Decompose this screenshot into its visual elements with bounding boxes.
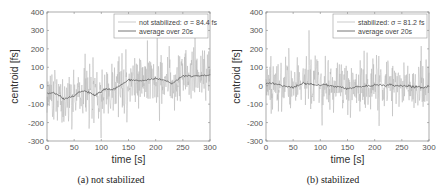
chart-svg: -300-200-1000100200300400050100150200250… bbox=[222, 0, 444, 194]
x-axis-label: time [s] bbox=[331, 153, 365, 165]
x-axis-label: time [s] bbox=[112, 153, 146, 165]
x-tick-label: 50 bbox=[289, 143, 298, 152]
y-tick-label: 200 bbox=[250, 45, 264, 54]
y-tick-label: 300 bbox=[250, 26, 264, 35]
y-tick-label: 100 bbox=[250, 63, 264, 72]
y-tick-label: 400 bbox=[31, 8, 45, 17]
x-tick-label: 200 bbox=[368, 143, 382, 152]
y-tick-label: -100 bbox=[247, 100, 264, 109]
raw-series-line bbox=[266, 30, 429, 126]
y-tick-label: -300 bbox=[28, 137, 45, 146]
y-tick-label: 100 bbox=[31, 63, 45, 72]
legend: stabilized: σ = 81.2 fsaverage over 20s bbox=[333, 14, 427, 38]
x-tick-label: 250 bbox=[176, 143, 190, 152]
y-tick-label: 400 bbox=[250, 8, 264, 17]
caption: (b) stabilized bbox=[222, 174, 444, 185]
y-tick-label: 200 bbox=[31, 45, 45, 54]
caption: (a) not stabilized bbox=[0, 174, 222, 185]
panel-stabilized: -300-200-1000100200300400050100150200250… bbox=[222, 0, 444, 194]
chart-svg: -300-200-1000100200300400050100150200250… bbox=[0, 0, 222, 194]
raw-series-line bbox=[47, 31, 210, 138]
x-tick-label: 0 bbox=[264, 143, 269, 152]
x-tick-label: 150 bbox=[122, 143, 136, 152]
y-axis-label: centroid [fs] bbox=[8, 49, 20, 103]
x-tick-label: 300 bbox=[422, 143, 436, 152]
legend-entry: average over 20s bbox=[358, 28, 413, 36]
y-tick-label: 0 bbox=[40, 82, 45, 91]
legend-entry: not stabilized: σ = 84.4 fs bbox=[139, 19, 218, 26]
x-tick-label: 300 bbox=[203, 143, 217, 152]
x-tick-label: 150 bbox=[341, 143, 355, 152]
legend-entry: average over 20s bbox=[139, 28, 194, 36]
y-tick-label: 0 bbox=[259, 82, 264, 91]
y-axis-label: centroid [fs] bbox=[230, 49, 242, 103]
legend: not stabilized: σ = 84.4 fsaverage over … bbox=[114, 14, 218, 38]
x-tick-label: 200 bbox=[149, 143, 163, 152]
x-tick-label: 250 bbox=[395, 143, 409, 152]
x-tick-label: 100 bbox=[314, 143, 328, 152]
y-tick-label: -100 bbox=[28, 100, 45, 109]
y-tick-label: -300 bbox=[247, 137, 264, 146]
x-tick-label: 0 bbox=[45, 143, 50, 152]
panel-not-stabilized: -300-200-1000100200300400050100150200250… bbox=[0, 0, 222, 194]
x-tick-label: 50 bbox=[70, 143, 79, 152]
y-tick-label: -200 bbox=[28, 119, 45, 128]
legend-entry: stabilized: σ = 81.2 fs bbox=[358, 19, 425, 26]
x-tick-label: 100 bbox=[95, 143, 109, 152]
y-tick-label: -200 bbox=[247, 119, 264, 128]
y-tick-label: 300 bbox=[31, 26, 45, 35]
